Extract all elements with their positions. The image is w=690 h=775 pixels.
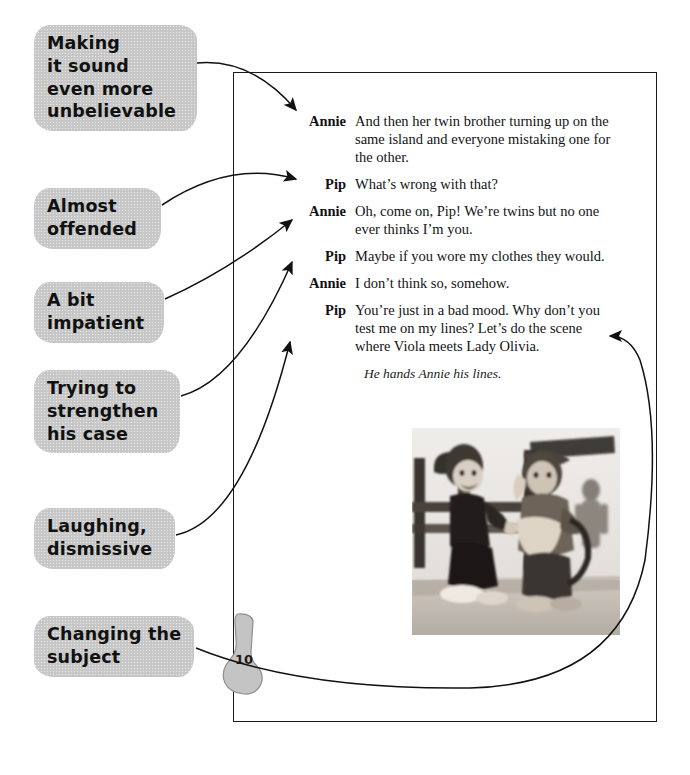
callout-line: Making [47, 32, 185, 55]
speech-line: Annie And then her twin brother turning … [297, 112, 617, 166]
callout-line: even more [47, 78, 185, 101]
annotation-callout: Changing the subject [34, 616, 194, 677]
speech-line: Annie I don’t think so, somehow. [297, 274, 617, 292]
callout-line: impatient [47, 312, 152, 335]
speech-text: And then her twin brother turning up on … [355, 112, 617, 166]
callout-line: dismissive [47, 538, 163, 561]
speaker-name: Pip [297, 301, 355, 355]
speaker-name: Pip [297, 247, 355, 265]
annotation-callout: Laughing, dismissive [34, 508, 175, 569]
callout-line: Almost [47, 195, 149, 218]
callout-line: A bit [47, 289, 152, 312]
page-number-marker: 10 [216, 612, 268, 698]
annotation-callout: Making it sound even more unbelievable [34, 25, 197, 131]
callout-line: Changing the [47, 623, 182, 646]
callout-line: it sound [47, 55, 185, 78]
callout-line: Trying to [47, 377, 168, 400]
page-number: 10 [235, 652, 253, 667]
callout-line: Laughing, [47, 515, 163, 538]
speech-text: You’re just in a bad mood. Why don’t you… [355, 301, 617, 355]
annotation-callout: Almost offended [34, 188, 161, 249]
callout-line: his case [47, 423, 168, 446]
speech-text: Oh, come on, Pip! We’re twins but no one… [355, 202, 617, 238]
speech-text: Maybe if you wore my clothes they would. [355, 247, 617, 265]
speaker-name: Pip [297, 175, 355, 193]
callout-line: subject [47, 646, 182, 669]
speech-line: Annie Oh, come on, Pip! We’re twins but … [297, 202, 617, 238]
callout-line: unbelievable [47, 100, 185, 123]
speech-line: Pip Maybe if you wore my clothes they wo… [297, 247, 617, 265]
script-dialogue-block: Annie And then her twin brother turning … [297, 112, 617, 382]
speech-text: I don’t think so, somehow. [355, 274, 617, 292]
photograph-image [412, 428, 620, 635]
scene-photograph [412, 428, 620, 635]
speech-text: What’s wrong with that? [355, 175, 617, 193]
speaker-name: Annie [297, 274, 355, 292]
stage-direction: He hands Annie his lines. [364, 365, 617, 382]
callout-line: strengthen [47, 400, 168, 423]
annotation-callout: A bit impatient [34, 282, 164, 343]
annotation-callout: Trying to strengthen his case [34, 370, 180, 453]
speech-line: Pip What’s wrong with that? [297, 175, 617, 193]
speaker-name: Annie [297, 202, 355, 238]
speech-line: Pip You’re just in a bad mood. Why don’t… [297, 301, 617, 355]
callout-line: offended [47, 218, 149, 241]
speaker-name: Annie [297, 112, 355, 166]
